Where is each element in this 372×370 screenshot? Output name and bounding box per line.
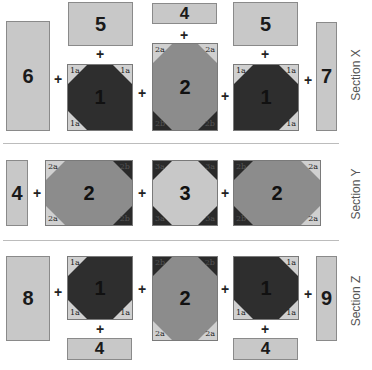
piece-number: 4 [261, 339, 270, 359]
corner-label-tr: 2b [205, 259, 215, 267]
piece-number: 4 [11, 182, 22, 205]
block-number: 2 [234, 161, 320, 225]
piece-number: 7 [321, 65, 332, 88]
piece-number: 8 [22, 287, 33, 310]
plus-sign: + [259, 47, 271, 61]
plus-sign: + [52, 285, 64, 299]
block-number: 2 [153, 44, 217, 130]
plus-sign: + [52, 72, 64, 86]
piece-number: 5 [260, 13, 271, 36]
piece-9: 9 [316, 256, 337, 341]
block-1-x-left: 11a1a1a [67, 64, 133, 131]
plus-sign: + [178, 28, 190, 42]
corner-label-bl: 2b [236, 215, 246, 223]
piece-4-bottom-right: 4 [233, 338, 298, 360]
piece-number: 6 [22, 65, 33, 88]
plus-sign: + [136, 86, 148, 100]
corner-label-tr: 3a [205, 163, 215, 171]
corner-label-tl: 1a [236, 67, 246, 75]
corner-label-bl: 1a [236, 309, 246, 317]
corner-label-bl: 1a [70, 120, 80, 128]
piece-number: 9 [321, 287, 332, 310]
corner-label-tl: 2b [236, 163, 246, 171]
section-divider [3, 240, 339, 241]
plus-sign: + [219, 282, 231, 296]
corner-label-bl: 2a [155, 330, 165, 338]
plus-sign: + [136, 186, 148, 200]
corner-label-bl: 1a [70, 309, 80, 317]
corner-label-tr: 2a [308, 163, 318, 171]
piece-6: 6 [6, 21, 50, 131]
piece-number: 5 [95, 13, 106, 36]
corner-label-tr: 2b [120, 163, 130, 171]
corner-label-br: 2b [120, 215, 130, 223]
piece-4-y: 4 [6, 160, 28, 226]
plus-sign: + [219, 186, 231, 200]
corner-label-bl: 3a [155, 215, 165, 223]
block-1-z-left: 11a1a1a [67, 256, 133, 320]
section-divider [3, 143, 339, 144]
corner-label-br: 2b [205, 120, 215, 128]
piece-4-bottom-left: 4 [67, 338, 132, 360]
section-y-label: Section Y [349, 154, 363, 234]
plus-sign: + [136, 282, 148, 296]
plus-sign: + [302, 287, 314, 301]
corner-label-br: 2a [308, 215, 318, 223]
block-1-x-right: 11a1a1a [233, 64, 299, 131]
piece-number: 4 [180, 4, 189, 24]
corner-label-br: 1a [286, 309, 296, 317]
piece-5-left: 5 [68, 2, 133, 46]
corner-label-br: 3a [205, 215, 215, 223]
section-x-label: Section X [349, 35, 363, 115]
block-2-y-left: 22a2b2a2b [45, 160, 133, 226]
plus-sign: + [302, 73, 314, 87]
plus-sign: + [31, 186, 43, 200]
corner-label-tl: 1a [70, 259, 80, 267]
block-3-y: 33a3a3a3a [152, 160, 218, 226]
block-2-x: 22a2a2b2b [152, 43, 218, 131]
corner-label-tr: 1a [286, 259, 296, 267]
corner-label-tl: 1a [70, 67, 80, 75]
corner-label-br: 1a [120, 309, 130, 317]
block-2-z: 22b2b2a2a [152, 256, 218, 341]
plus-sign: + [94, 47, 106, 61]
piece-7: 7 [316, 22, 337, 131]
plus-sign: + [94, 322, 106, 336]
plus-sign: + [219, 89, 231, 103]
block-2-y-right: 22b2a2b2a [233, 160, 321, 226]
corner-label-tr: 2a [205, 46, 215, 54]
piece-number: 4 [95, 339, 104, 359]
corner-label-br: 2a [205, 330, 215, 338]
piece-5-right: 5 [233, 2, 298, 46]
corner-label-tr: 1a [286, 67, 296, 75]
corner-label-bl: 2b [155, 120, 165, 128]
corner-label-tl: 3a [155, 163, 165, 171]
corner-label-tl: 2a [48, 163, 58, 171]
corner-label-tr: 1a [120, 67, 130, 75]
section-z-label: Section Z [349, 261, 363, 341]
block-number: 2 [153, 257, 217, 340]
corner-label-tl: 2b [155, 259, 165, 267]
piece-4-top: 4 [152, 3, 217, 24]
corner-label-bl: 2a [48, 215, 58, 223]
plus-sign: + [259, 322, 271, 336]
corner-label-br: 1a [286, 120, 296, 128]
corner-label-tl: 2a [155, 46, 165, 54]
block-1-z-right: 11a1a1a [233, 256, 299, 320]
piece-8: 8 [6, 256, 50, 341]
